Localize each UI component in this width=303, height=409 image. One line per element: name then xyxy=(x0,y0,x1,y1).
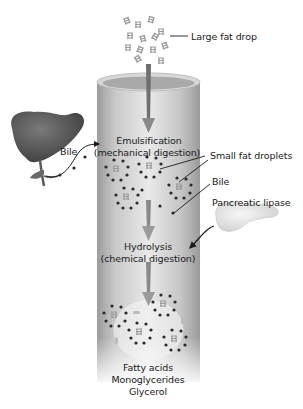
label-pancreatic-lipase: Pancreatic lipase xyxy=(212,197,291,208)
label-small-fat-droplets: Small fat droplets xyxy=(210,150,292,161)
label-monoglycerides: Monoglycerides xyxy=(111,374,184,385)
label-glycerol: Glycerol xyxy=(129,386,167,397)
label-fatty-acids: Fatty acids xyxy=(123,362,173,373)
label-bile-left: Bile xyxy=(60,146,77,157)
label-chemical-digestion: (chemical digestion) xyxy=(101,253,196,264)
label-bile-right: Bile xyxy=(212,176,229,187)
label-large-fat-drop: Large fat drop xyxy=(191,31,257,42)
label-emulsification: Emulsification xyxy=(116,135,181,146)
label-mechanical-digestion: (mechanical digestion) xyxy=(94,147,200,158)
label-hydrolysis: Hydrolysis xyxy=(124,241,172,252)
large-fat-drop xyxy=(123,16,169,64)
